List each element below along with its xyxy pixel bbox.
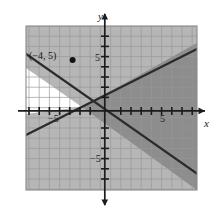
- graph-figure: y x 5 −5 5 −5 (−4, 5): [0, 0, 219, 213]
- y-tick-label-5: 5: [95, 52, 100, 63]
- x-axis-label: x: [204, 117, 209, 129]
- plotted-point-marker: [70, 57, 76, 63]
- x-tick-label-5: 5: [160, 113, 165, 124]
- point-coordinate-label: (−4, 5): [29, 50, 56, 61]
- x-tick-label-neg5: −5: [48, 113, 59, 124]
- y-tick-label-neg5: −5: [90, 153, 101, 164]
- y-axis-label: y: [98, 10, 103, 22]
- coordinate-plane: [0, 0, 219, 213]
- y-axis-arrow-down: [102, 200, 109, 207]
- x-axis-arrow-right: [199, 108, 206, 115]
